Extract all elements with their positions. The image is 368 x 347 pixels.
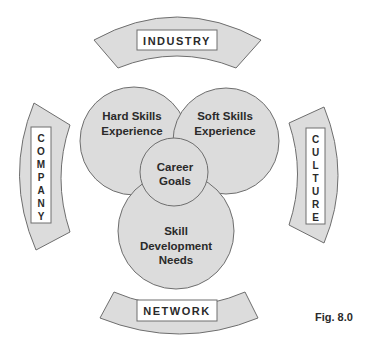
svg-text:E: E	[312, 212, 319, 223]
soft-skills-line2: Experience	[194, 125, 255, 137]
figure-caption: Fig. 8.0	[315, 311, 353, 323]
company-label: C O M P A N Y	[37, 133, 45, 222]
skill-dev-line3: Needs	[159, 254, 194, 266]
svg-text:T: T	[312, 173, 318, 184]
career-goals-line1: Career	[157, 161, 194, 173]
network-label: NETWORK	[143, 305, 210, 317]
svg-text:A: A	[37, 185, 44, 196]
svg-text:U: U	[312, 186, 319, 197]
svg-text:L: L	[312, 160, 318, 171]
arc-industry: INDUSTRY	[94, 17, 261, 68]
svg-text:P: P	[38, 172, 45, 183]
skill-dev-line2: Development	[140, 240, 212, 252]
svg-text:M: M	[37, 159, 45, 170]
arc-company: C O M P A N Y	[19, 103, 70, 250]
svg-text:O: O	[37, 146, 45, 157]
svg-text:R: R	[312, 199, 320, 210]
hard-skills-line2: Experience	[101, 125, 162, 137]
soft-skills-line1: Soft Skills	[197, 110, 253, 122]
arc-network: NETWORK	[100, 292, 258, 334]
arc-culture: C U L T U R E	[289, 107, 338, 243]
svg-text:N: N	[37, 198, 44, 209]
svg-text:C: C	[37, 133, 44, 144]
industry-label: INDUSTRY	[143, 35, 211, 47]
diagram-canvas: INDUSTRY NETWORK C O M P A N Y C U L T U…	[0, 0, 368, 347]
svg-text:C: C	[312, 134, 319, 145]
svg-text:Y: Y	[38, 211, 45, 222]
hard-skills-line1: Hard Skills	[102, 110, 161, 122]
skill-dev-line1: Skill	[164, 225, 188, 237]
career-goals-line2: Goals	[159, 175, 191, 187]
svg-text:U: U	[312, 147, 319, 158]
